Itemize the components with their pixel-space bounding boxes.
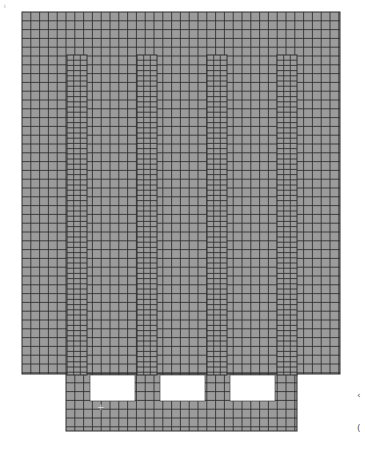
- mesh-diagram: +: [0, 0, 365, 455]
- hole-2: [160, 375, 205, 401]
- hole-3: [230, 375, 275, 401]
- marker-plus: +: [97, 402, 105, 412]
- column-2: [137, 55, 157, 375]
- column-3: [207, 55, 227, 375]
- column-4: [277, 55, 297, 375]
- hole-1: [90, 375, 135, 401]
- column-1: [67, 55, 87, 375]
